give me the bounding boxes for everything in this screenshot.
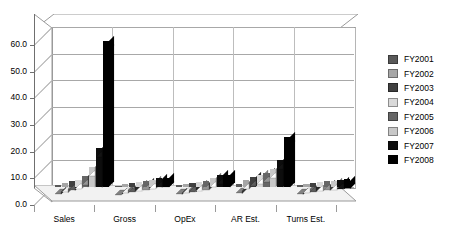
legend-item[interactable]: FY2007 [388,138,460,152]
plot-area: 0.010.020.030.040.050.060.0 SalesGrossOp… [0,0,370,231]
bar-side [169,173,174,187]
x-axis-tick [215,205,216,212]
bar [331,181,337,187]
legend-label: FY2001 [404,54,434,64]
y-axis-tick [30,72,35,73]
bar [122,184,128,187]
legend-label: FY2003 [404,83,434,93]
bar [277,160,283,187]
bar [203,181,209,187]
bar [337,180,343,187]
legend-swatch [388,155,398,164]
bar [129,183,135,187]
bar [55,185,61,187]
bar-side [230,170,235,187]
bar [250,177,256,187]
legend-swatch [388,141,398,150]
x-axis-tick [276,205,277,212]
legend-swatch [388,83,398,92]
bar [96,148,102,187]
bar [324,181,330,187]
y-axis-tick-label: 0.0 [0,200,27,209]
legend-item[interactable]: FY2008 [388,153,460,167]
bar [143,181,149,187]
legend-swatch [388,98,398,107]
bar [89,167,95,187]
legend-item[interactable]: FY2002 [388,66,460,80]
legend-item[interactable]: FY2004 [388,95,460,109]
chart-container: 0.010.020.030.040.050.060.0 SalesGrossOp… [0,0,463,231]
legend-label: FY2002 [404,69,434,79]
x-axis-tick [336,205,337,212]
y-axis-tick [30,45,35,46]
y-axis-tick [30,125,35,126]
legend-item[interactable]: FY2006 [388,124,460,138]
bar [136,182,142,187]
x-axis-tick [155,205,156,212]
bar [317,182,323,187]
x-axis-tick-label: OpEx [155,214,215,224]
bar [189,183,195,187]
x-axis-tick-label: AR Est. [215,214,275,224]
bar [236,184,242,187]
bar [284,137,290,187]
x-axis-tick-label: Gross [94,214,154,224]
bar [82,176,88,187]
bar [243,180,249,187]
bar [310,183,316,187]
legend-swatch [388,55,398,64]
y-axis-tick [30,98,35,99]
legend-item[interactable]: FY2003 [388,81,460,95]
bar [270,169,276,187]
bar [75,180,81,187]
bar [217,175,223,187]
legend-label: FY2008 [404,155,434,165]
y-axis-tick [30,152,35,153]
bar [303,184,309,187]
bar [297,185,303,187]
legend-label: FY2006 [404,126,434,136]
y-axis-tick [30,178,35,179]
y-axis-tick-label: 30.0 [0,120,27,129]
legend-swatch [388,127,398,136]
bar-side [350,174,355,187]
bar [263,173,269,187]
y-axis-tick-label: 10.0 [0,173,27,182]
bar [210,178,216,187]
bar [149,180,155,187]
bar [156,178,162,187]
legend-label: FY2007 [404,141,434,151]
bar [115,186,121,187]
bar [344,179,350,187]
chart-legend: FY2001FY2002FY2003FY2004FY2005FY2006FY20… [388,52,460,167]
x-axis-tick [34,205,35,212]
chart-bars [0,0,370,231]
bar [69,181,75,187]
bar [176,185,182,187]
legend-item[interactable]: FY2001 [388,52,460,66]
y-axis-tick-label: 60.0 [0,40,27,49]
bar [103,41,109,187]
bar [163,178,169,187]
bar-side [290,132,295,187]
legend-label: FY2005 [404,112,434,122]
bar-side [109,36,114,187]
y-axis-tick-label: 40.0 [0,93,27,102]
y-axis-tick-label: 50.0 [0,67,27,76]
legend-swatch [388,112,398,121]
x-axis-tick [94,205,95,212]
legend-item[interactable]: FY2005 [388,110,460,124]
y-axis-line [34,14,35,188]
bar [223,175,229,187]
bar [257,175,263,187]
bar [196,182,202,187]
bar [62,183,68,187]
x-axis-tick-label: Turns Est. [276,214,336,224]
y-axis-tick-label: 20.0 [0,147,27,156]
legend-swatch [388,69,398,78]
bar [183,184,189,187]
x-axis-tick-label: Sales [34,214,94,224]
legend-label: FY2004 [404,97,434,107]
